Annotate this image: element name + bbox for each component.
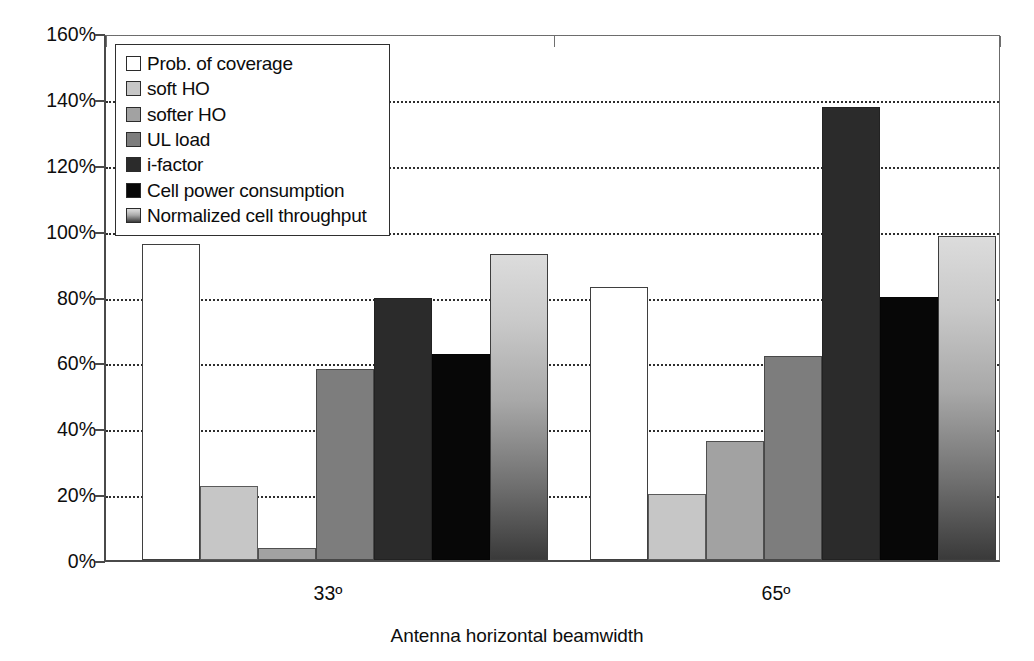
chart-figure: 0%20%40%60%80%100%120%140%160% Prob. of … — [0, 0, 1034, 661]
bar — [432, 354, 490, 560]
legend-item-label: Normalized cell throughput — [147, 206, 367, 225]
legend-swatch-icon — [126, 107, 141, 122]
y-axis-tickmark — [95, 363, 105, 365]
bar — [316, 369, 374, 560]
legend-swatch-icon — [126, 183, 141, 198]
x-axis-tickmark — [1000, 36, 1001, 47]
bar — [938, 236, 996, 560]
gridline — [106, 35, 999, 36]
legend-item-label: Prob. of coverage — [147, 54, 293, 73]
bar — [200, 486, 258, 560]
y-axis-tickmark — [95, 495, 105, 497]
y-axis-tick-label: 160% — [8, 25, 96, 44]
bar — [764, 356, 822, 560]
legend-swatch-icon — [126, 208, 141, 223]
bar — [142, 244, 200, 560]
legend-item[interactable]: Normalized cell throughput — [126, 203, 380, 228]
y-axis-tickmark — [95, 429, 105, 431]
legend-swatch-icon — [126, 56, 141, 71]
bar — [590, 287, 648, 560]
bar — [822, 107, 880, 560]
legend-item-label: soft HO — [147, 79, 210, 98]
bar — [880, 297, 938, 561]
bar — [706, 441, 764, 560]
legend-item[interactable]: softer HO — [126, 102, 380, 127]
bar — [648, 494, 706, 560]
x-axis-title: Antenna horizontal beamwidth — [0, 625, 1034, 647]
y-axis-tick-label: 120% — [8, 157, 96, 176]
y-axis-tickmark — [95, 232, 105, 234]
y-axis-tick-label: 140% — [8, 91, 96, 110]
legend-swatch-icon — [126, 132, 141, 147]
legend-item-label: UL load — [147, 130, 210, 149]
y-axis-tick-label: 80% — [8, 289, 96, 308]
y-axis-tickmark — [95, 166, 105, 168]
chart-legend: Prob. of coveragesoft HOsofter HOUL load… — [115, 44, 390, 236]
x-axis-category-label: 65º — [552, 584, 1000, 603]
y-axis-tick-label: 40% — [8, 420, 96, 439]
legend-item[interactable]: Cell power consumption — [126, 177, 380, 202]
legend-item-label: softer HO — [147, 105, 226, 124]
x-axis-category-label: 33º — [104, 584, 552, 603]
legend-item-label: i-factor — [147, 155, 203, 174]
x-axis-tickmark — [106, 36, 107, 47]
legend-item[interactable]: UL load — [126, 127, 380, 152]
bar — [258, 548, 316, 560]
legend-item[interactable]: i-factor — [126, 152, 380, 177]
y-axis-tick-label: 100% — [8, 223, 96, 242]
legend-item-label: Cell power consumption — [147, 181, 344, 200]
legend-item[interactable]: soft HO — [126, 76, 380, 101]
legend-item[interactable]: Prob. of coverage — [126, 51, 380, 76]
y-axis-tickmark — [95, 100, 105, 102]
y-axis-tickmark — [95, 561, 105, 563]
y-axis-tickmark — [95, 298, 105, 300]
y-axis-tick-label: 60% — [8, 354, 96, 373]
bar — [374, 298, 432, 560]
x-axis-tickmark — [554, 36, 555, 47]
y-axis-tick-label: 20% — [8, 486, 96, 505]
legend-swatch-icon — [126, 157, 141, 172]
y-axis-tick-label: 0% — [8, 552, 96, 571]
legend-swatch-icon — [126, 81, 141, 96]
bar — [490, 254, 548, 560]
y-axis-tickmark — [95, 34, 105, 36]
